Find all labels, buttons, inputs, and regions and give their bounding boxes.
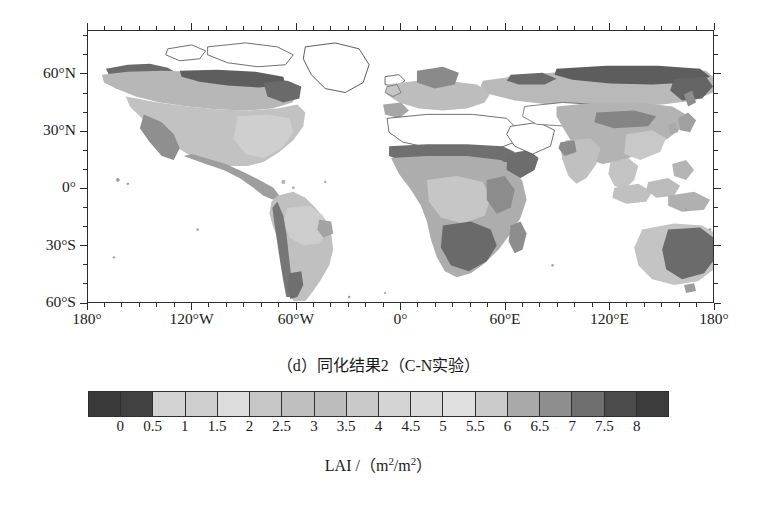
y-tick-left: [80, 73, 87, 74]
x-tick-bottom: [296, 303, 297, 310]
y-axis-label: 30°S: [0, 236, 76, 254]
colorbar-segment: [572, 392, 604, 416]
y-tick-left: [83, 207, 87, 208]
x-tick-bottom: [139, 303, 140, 307]
x-tick-bottom: [609, 303, 610, 310]
region-cuba: [281, 180, 285, 184]
y-tick-left: [83, 93, 87, 94]
y-axis-label: 60°S: [0, 293, 76, 311]
x-tick-top: [104, 26, 105, 30]
x-tick-bottom: [348, 303, 349, 307]
y-tick-right: [714, 283, 718, 284]
colorbar-tick-labels: 00.511.522.533.544.555.566.577.58: [88, 418, 669, 438]
x-tick-top: [226, 26, 227, 30]
colorbar-title-prefix: LAI /（m: [325, 457, 389, 474]
x-tick-top: [243, 26, 244, 30]
x-tick-bottom: [365, 303, 366, 307]
x-tick-top: [121, 26, 122, 30]
x-tick-top: [539, 26, 540, 30]
x-tick-top: [644, 26, 645, 30]
x-tick-top: [156, 26, 157, 30]
colorbar-segment: [315, 392, 347, 416]
x-tick-top: [139, 26, 140, 30]
x-tick-top: [417, 26, 418, 30]
colorbar-segment: [282, 392, 314, 416]
x-tick-bottom: [261, 303, 262, 307]
figure-root: 60°N30°N0°30°S60°S 180°120°W60°W0°60°E12…: [0, 0, 757, 510]
speck-pacific-3: [709, 228, 712, 231]
speck-solomon: [685, 208, 687, 210]
x-tick-bottom: [539, 303, 540, 307]
x-tick-top: [522, 26, 523, 30]
x-axis-label: 180°: [669, 310, 757, 328]
x-tick-top: [696, 26, 697, 30]
x-tick-bottom: [191, 303, 192, 310]
y-tick-left: [80, 245, 87, 246]
x-tick-bottom: [313, 303, 314, 307]
y-tick-right: [714, 35, 718, 36]
x-tick-bottom: [644, 303, 645, 307]
colorbar-segment: [379, 392, 411, 416]
colorbar-segment: [250, 392, 282, 416]
x-tick-top: [348, 26, 349, 30]
x-tick-top: [609, 23, 610, 30]
colorbar-segment: [218, 392, 250, 416]
x-tick-bottom: [592, 303, 593, 307]
speck-falklands: [348, 296, 351, 299]
y-tick-left: [83, 54, 87, 55]
x-tick-bottom: [330, 303, 331, 307]
x-tick-bottom: [226, 303, 227, 307]
y-tick-right: [714, 54, 718, 55]
y-tick-right: [714, 150, 718, 151]
x-axis-label: 0°: [356, 310, 446, 328]
x-tick-top: [330, 26, 331, 30]
x-tick-top: [505, 23, 506, 30]
x-tick-top: [557, 26, 558, 30]
x-tick-top: [452, 26, 453, 30]
y-tick-right: [714, 112, 718, 113]
colorbar-segment: [637, 392, 668, 416]
x-tick-bottom: [104, 303, 105, 307]
x-tick-top: [487, 26, 488, 30]
x-tick-top: [470, 26, 471, 30]
colorbar-wrap: [88, 391, 669, 417]
colorbar-title: LAI /（m2/m2）: [0, 452, 757, 476]
y-tick-right: [714, 93, 718, 94]
speck-pacific-1: [196, 228, 198, 230]
x-tick-bottom: [661, 303, 662, 307]
x-tick-bottom: [435, 303, 436, 307]
region-hawaii: [116, 178, 120, 182]
x-tick-top: [365, 26, 366, 30]
y-tick-right: [714, 264, 718, 265]
y-tick-left: [83, 35, 87, 36]
colorbar-segment: [121, 392, 153, 416]
x-tick-top: [191, 23, 192, 30]
y-tick-left: [83, 150, 87, 151]
colorbar-title-mid: /m: [394, 457, 411, 474]
y-tick-left: [83, 169, 87, 170]
x-tick-top: [400, 23, 401, 30]
y-tick-left: [83, 283, 87, 284]
x-axis-label: 120°W: [147, 310, 237, 328]
x-tick-bottom: [400, 303, 401, 310]
y-tick-right: [714, 169, 718, 170]
x-tick-top: [313, 26, 314, 30]
x-tick-top: [383, 26, 384, 30]
colorbar-segment: [540, 392, 572, 416]
figure-caption: （d）同化结果2（C-N实验）: [0, 352, 757, 376]
x-tick-bottom: [452, 303, 453, 307]
colorbar-segment: [153, 392, 185, 416]
x-tick-top: [679, 26, 680, 30]
colorbar-segment: [347, 392, 379, 416]
x-tick-top: [574, 26, 575, 30]
x-tick-bottom: [557, 303, 558, 307]
region-hispaniola: [292, 186, 295, 189]
colorbar-segment: [186, 392, 218, 416]
x-tick-top: [714, 23, 715, 30]
y-axis-label: 0°: [0, 178, 76, 196]
x-axis-label: 60°E: [460, 310, 550, 328]
world-lai-map: [88, 31, 713, 302]
speck-south-atlantic: [384, 292, 386, 294]
speck-pacific-2: [113, 256, 115, 258]
x-tick-top: [261, 26, 262, 30]
